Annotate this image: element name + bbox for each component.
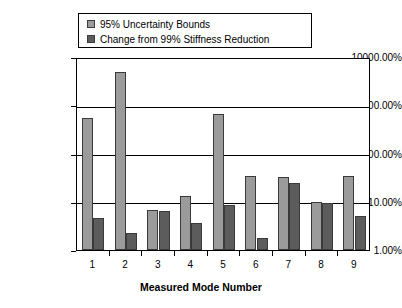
x-axis-tick-mark bbox=[174, 251, 175, 256]
bar bbox=[311, 202, 322, 250]
x-axis-tick-label: 5 bbox=[213, 259, 233, 270]
x-axis-tick-mark bbox=[141, 251, 142, 256]
bar bbox=[126, 233, 137, 250]
bar bbox=[355, 216, 366, 250]
bars-layer bbox=[77, 59, 369, 250]
x-axis-tick-mark bbox=[207, 251, 208, 256]
bar bbox=[147, 210, 158, 250]
x-axis-title: Measured Mode Number bbox=[0, 281, 402, 293]
x-axis-tick-label: 6 bbox=[246, 259, 266, 270]
chart-legend: 95% Uncertainty Bounds Change from 99% S… bbox=[78, 13, 312, 48]
x-axis-tick-mark bbox=[272, 251, 273, 256]
x-axis-tick-label: 8 bbox=[311, 259, 331, 270]
x-axis-tick-label: 3 bbox=[148, 259, 168, 270]
bar bbox=[245, 176, 256, 251]
bar bbox=[278, 177, 289, 250]
x-axis-tick-label: 1 bbox=[82, 259, 102, 270]
legend-item-label: 95% Uncertainty Bounds bbox=[100, 19, 210, 30]
bar bbox=[213, 114, 224, 250]
x-axis-tick-label: 2 bbox=[115, 259, 135, 270]
x-axis-tick-mark bbox=[337, 251, 338, 256]
bar bbox=[180, 196, 191, 250]
legend-swatch-icon bbox=[87, 35, 95, 43]
x-axis-tick-mark bbox=[305, 251, 306, 256]
bar-chart: 95% Uncertainty Bounds Change from 99% S… bbox=[0, 0, 402, 308]
bar bbox=[159, 211, 170, 250]
bar bbox=[257, 238, 268, 250]
bar bbox=[93, 218, 104, 250]
bar bbox=[289, 183, 300, 250]
bar bbox=[82, 118, 93, 250]
legend-item-label: Change from 99% Stiffness Reduction bbox=[100, 34, 269, 45]
x-axis-tick-label: 4 bbox=[180, 259, 200, 270]
x-axis-tick-label: 7 bbox=[278, 259, 298, 270]
bar bbox=[322, 203, 333, 250]
bar bbox=[191, 223, 202, 250]
legend-item-0: 95% Uncertainty Bounds bbox=[87, 17, 311, 31]
bar bbox=[224, 205, 235, 250]
y-axis-tick-mark bbox=[71, 251, 76, 252]
legend-item-1: Change from 99% Stiffness Reduction bbox=[87, 32, 311, 46]
x-axis-tick-mark bbox=[109, 251, 110, 256]
plot-area bbox=[76, 58, 370, 251]
bar bbox=[343, 176, 354, 251]
x-axis-tick-label: 9 bbox=[344, 259, 364, 270]
legend-swatch-icon bbox=[87, 20, 95, 28]
x-axis-tick-mark bbox=[239, 251, 240, 256]
bar bbox=[115, 72, 126, 250]
